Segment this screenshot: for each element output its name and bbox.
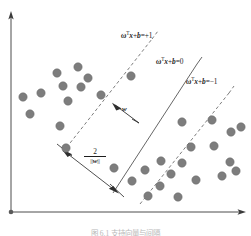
margin-numerator: 2 [78,148,112,156]
normal-vector-label: w [122,105,127,113]
data-point [74,63,82,71]
margin-width-label: 2 ||w|| [78,148,112,165]
data-point [210,142,218,150]
margin-denominator: ||w|| [78,158,112,165]
data-point [232,167,240,175]
data-point [127,72,135,80]
data-point [237,123,245,131]
figure-caption: 图 6.1 支持向量与间隔 [0,227,251,236]
data-point [59,82,67,90]
data-point [141,166,149,174]
data-point [178,159,186,167]
margin-upper-line [63,39,152,152]
data-points-left [19,63,105,152]
decision-boundary-leader [197,57,202,64]
data-point [226,158,234,166]
data-point [77,83,85,91]
data-point [157,157,165,165]
data-point [97,91,105,99]
hyperplane-negative-label: ωTx+b=−1 [186,76,217,86]
equals-value: =−1 [206,77,218,86]
data-point [84,74,92,82]
data-point [19,93,27,101]
data-point [53,69,61,77]
data-point [128,177,136,185]
data-point [62,144,70,152]
data-point [192,176,200,184]
hyperplane-positive-label: ωTx+b=+1 [121,30,152,40]
w-arrow-base-tick [132,119,139,123]
norm-close: || [97,157,99,165]
axes-group [8,11,246,215]
data-point [174,193,182,201]
data-point [178,118,186,126]
margin-upper-leader [152,31,158,39]
data-point [26,110,34,118]
data-points-right [110,72,245,201]
data-point [37,89,45,97]
decision-boundary-line [113,64,197,193]
data-point [56,122,64,130]
data-point [64,97,72,105]
data-point [227,128,235,136]
hyperplane-zero-label: ωTx+b=0 [156,56,183,66]
data-point [187,143,195,151]
origin-marker [9,210,14,215]
data-point [156,182,164,190]
data-point [208,116,216,124]
data-point [218,172,226,180]
data-point [144,192,152,200]
data-point [167,170,175,178]
margin-lower-leader [229,86,234,93]
equals-value: =+1 [141,31,153,40]
margin-cap-lower [110,184,124,197]
equals-value: =0 [176,57,184,66]
svm-figure: ωTx+b=+1 ωTx+b=0 ωTx+b=−1 w 2 ||w|| 图 6.… [0,0,251,236]
